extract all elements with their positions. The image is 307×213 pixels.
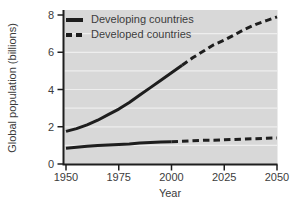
solid-line-swatch-icon [66, 18, 83, 22]
y-tick-label: 6 [48, 46, 54, 58]
x-tick-label: 2050 [265, 171, 289, 183]
legend-item-developed-countries: Developed countries [66, 28, 194, 41]
x-tick-label: 1950 [54, 171, 78, 183]
global-population-chart: 0246819501975200020252050 Year Global po… [0, 0, 307, 213]
y-tick-label: 0 [48, 158, 54, 170]
legend: Developing countries Developed countries [66, 13, 194, 41]
dashed-line-swatch-icon [66, 33, 83, 37]
y-tick-label: 2 [48, 121, 54, 133]
legend-label: Developed countries [91, 28, 191, 41]
x-tick-label: 1975 [107, 171, 131, 183]
y-axis-title: Global population (billions) [6, 23, 18, 153]
x-axis-title: Year [159, 187, 182, 199]
legend-label: Developing countries [91, 13, 194, 26]
y-tick-label: 4 [48, 84, 54, 96]
legend-item-developing-countries: Developing countries [66, 13, 194, 26]
x-tick-label: 2000 [159, 171, 183, 183]
x-tick-label: 2025 [212, 171, 236, 183]
y-tick-label: 8 [48, 9, 54, 21]
